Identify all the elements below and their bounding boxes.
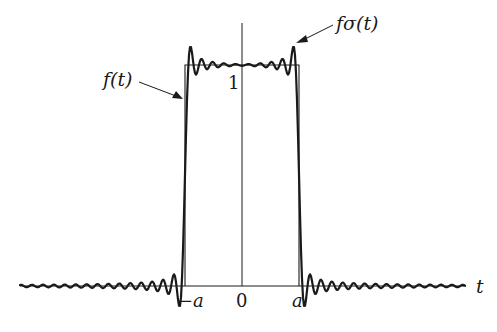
height-label: 1 bbox=[228, 72, 239, 93]
f-sigma-arrow-line bbox=[303, 25, 333, 40]
t-axis-label: t bbox=[476, 275, 484, 297]
f-sigma-label: fσ(t) bbox=[334, 12, 378, 34]
f-sigma-arrowhead-icon bbox=[296, 35, 308, 43]
a-label: a bbox=[292, 290, 303, 311]
pulse-diagram: fσ(t) f(t) 1 t −a 0 a bbox=[0, 0, 497, 332]
f-arrow-line bbox=[139, 82, 176, 96]
f-label: f(t) bbox=[101, 68, 133, 90]
zero-label: 0 bbox=[236, 290, 247, 311]
minus-a-label: −a bbox=[178, 290, 204, 311]
